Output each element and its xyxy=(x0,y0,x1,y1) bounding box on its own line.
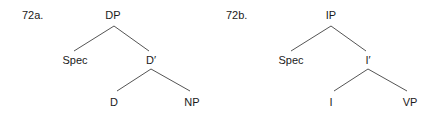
bar-node: I′ xyxy=(365,54,370,66)
tree-72b-edges xyxy=(291,26,407,91)
spec-node: Spec xyxy=(62,54,87,66)
example-number: 72b. xyxy=(226,9,247,21)
complement-node: VP xyxy=(403,96,418,108)
head-node: I xyxy=(329,96,332,108)
tree-72a-edges xyxy=(74,26,190,91)
head-node: D xyxy=(110,96,118,108)
complement-node: NP xyxy=(184,96,199,108)
example-number: 72a. xyxy=(22,9,43,21)
bar-node: D′ xyxy=(146,54,156,66)
root-node: IP xyxy=(326,9,336,21)
root-node: DP xyxy=(105,9,120,21)
spec-node: Spec xyxy=(278,54,303,66)
